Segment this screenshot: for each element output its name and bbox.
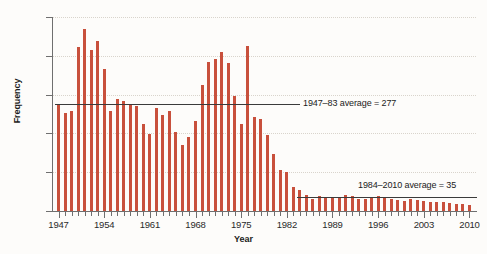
x-tick-mark — [117, 212, 118, 216]
x-tick-label-2010: 2010 — [447, 219, 487, 230]
avg-1947-83-line — [55, 104, 300, 105]
bar — [298, 190, 301, 211]
x-tick-label-1975: 1975 — [219, 219, 263, 230]
x-tick-mark — [313, 212, 314, 216]
x-tick-mark — [228, 212, 229, 216]
bar — [174, 132, 177, 211]
x-tick-mark — [437, 212, 438, 216]
avg-1984-2010-label: 1984–2010 average = 35 — [358, 180, 456, 190]
x-tick-mark — [417, 212, 418, 216]
bar — [416, 200, 419, 211]
x-tick-mark — [267, 212, 268, 216]
x-tick-mark — [137, 212, 138, 216]
x-tick-mark — [130, 212, 131, 216]
x-tick-mark — [456, 212, 457, 216]
bar — [64, 113, 67, 211]
y-tick-mark — [46, 17, 52, 18]
x-tick-mark — [463, 212, 464, 216]
x-tick-mark — [235, 212, 236, 216]
bar — [383, 198, 386, 211]
bar — [103, 69, 106, 211]
bar — [57, 105, 60, 211]
bar — [246, 46, 249, 211]
x-tick-mark — [189, 212, 190, 216]
x-tick-mark — [404, 212, 405, 216]
x-tick-mark — [391, 212, 392, 216]
x-tick-mark — [261, 212, 262, 216]
x-tick-mark — [91, 212, 92, 216]
x-tick-mark — [202, 212, 203, 216]
bar — [187, 137, 190, 211]
x-tick-mark — [222, 212, 223, 216]
x-tick-mark — [163, 212, 164, 216]
avg-1947-83-label: 1947–83 average = 277 — [303, 98, 396, 108]
bar — [77, 47, 80, 212]
x-tick-mark — [306, 212, 307, 216]
x-tick-mark — [300, 212, 301, 216]
bar — [324, 197, 327, 211]
bar — [409, 199, 412, 211]
x-tick-mark — [156, 212, 157, 216]
x-tick-mark — [443, 212, 444, 216]
x-tick-label-2003: 2003 — [402, 219, 446, 230]
bar — [240, 124, 243, 211]
chart-figure: 0100200300400500 Frequency 1947195419611… — [0, 0, 487, 254]
bar — [377, 196, 380, 211]
bar — [435, 202, 438, 211]
bar — [181, 145, 184, 211]
x-axis-title: Year — [0, 234, 487, 244]
x-tick-mark — [359, 212, 360, 216]
x-tick-mark — [352, 212, 353, 216]
x-tick-mark — [98, 212, 99, 216]
x-tick-mark — [326, 212, 327, 216]
x-tick-mark — [72, 212, 73, 216]
bar — [422, 201, 425, 211]
x-tick-mark — [378, 212, 379, 218]
x-tick-mark — [293, 212, 294, 216]
x-tick-mark — [365, 212, 366, 216]
bar — [351, 196, 354, 211]
x-tick-mark — [385, 212, 386, 216]
bar — [161, 115, 164, 211]
bar — [70, 111, 73, 211]
bar — [214, 59, 217, 211]
bar — [311, 199, 314, 211]
y-tick-mark — [46, 133, 52, 134]
bar — [461, 204, 464, 211]
x-tick-mark — [254, 212, 255, 216]
bar — [135, 106, 138, 211]
x-tick-label-1982: 1982 — [265, 219, 309, 230]
x-tick-mark — [346, 212, 347, 216]
x-tick-label-1954: 1954 — [82, 219, 126, 230]
bar — [318, 196, 321, 211]
bar — [272, 154, 275, 211]
x-tick-mark — [124, 212, 125, 216]
bar — [442, 202, 445, 211]
avg-1984-2010-line — [297, 197, 477, 198]
x-tick-mark — [372, 212, 373, 216]
bar — [129, 105, 132, 211]
bar — [279, 170, 282, 211]
bar — [194, 121, 197, 211]
x-tick-mark — [411, 212, 412, 216]
x-tick-mark — [241, 212, 242, 218]
gridline-400 — [52, 56, 476, 57]
bar — [390, 199, 393, 211]
x-tick-mark — [398, 212, 399, 216]
bar — [285, 172, 288, 211]
bar — [148, 134, 151, 211]
x-tick-mark — [78, 212, 79, 216]
x-tick-mark — [111, 212, 112, 216]
bar — [227, 63, 230, 211]
x-tick-mark — [176, 212, 177, 216]
bar — [338, 198, 341, 211]
bar — [253, 117, 256, 211]
bar — [455, 204, 458, 211]
y-tick-mark — [46, 211, 52, 212]
x-tick-label-1996: 1996 — [356, 219, 400, 230]
x-tick-mark — [65, 212, 66, 216]
y-tick-mark — [46, 172, 52, 173]
bar — [357, 199, 360, 211]
x-tick-mark — [196, 212, 197, 218]
bar — [233, 96, 236, 211]
